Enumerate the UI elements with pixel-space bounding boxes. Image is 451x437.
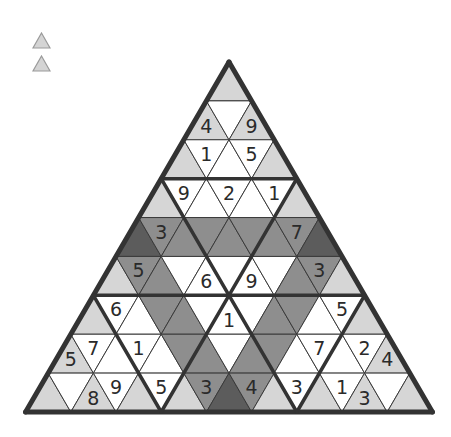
triangle-tool-icon-2[interactable] xyxy=(32,55,51,72)
cell-layer: 491592137569361557172489534313 xyxy=(26,62,433,412)
triangle-sudoku-board: 491592137569361557172489534313 xyxy=(0,0,451,437)
triangle-tool-icon-1[interactable] xyxy=(32,32,51,49)
puzzle-cell[interactable] xyxy=(206,62,251,101)
